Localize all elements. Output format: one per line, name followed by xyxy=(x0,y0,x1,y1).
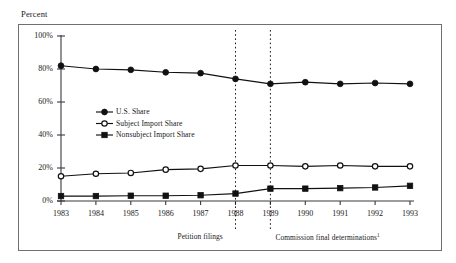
x-tick-label: 1983 xyxy=(45,209,77,218)
x-tick-label: 1992 xyxy=(359,209,391,218)
y-tick-label: 100% xyxy=(23,31,53,40)
legend-item-label: U.S. Share xyxy=(116,107,150,116)
x-tick-label: 1991 xyxy=(324,209,356,218)
y-tick-label: 40% xyxy=(23,130,53,139)
x-tick-label: 1985 xyxy=(115,209,147,218)
x-tick-label: 1987 xyxy=(185,209,217,218)
y-tick-label: 20% xyxy=(23,163,53,172)
annotation-commission-final-determinations: Commission final determinations1 xyxy=(275,232,379,242)
x-tick-label: 1989 xyxy=(254,209,286,218)
y-tick-label: 80% xyxy=(23,64,53,73)
y-tick-label: 0% xyxy=(23,196,53,205)
x-tick-label: 1986 xyxy=(150,209,182,218)
x-tick-label: 1993 xyxy=(394,209,426,218)
y-axis-title: Percent xyxy=(21,9,48,19)
annotation-petition-filings: Petition filings xyxy=(178,232,223,241)
x-tick-label: 1988 xyxy=(220,209,252,218)
legend-item-label: Nonsubject Import Share xyxy=(116,130,195,139)
y-tick-label: 60% xyxy=(23,97,53,106)
x-tick-label: 1984 xyxy=(80,209,112,218)
chart-figure: Percent 0%20%40%60%80%100% 1983198419851… xyxy=(0,0,456,263)
legend-item-label: Subject Import Share xyxy=(116,119,183,128)
x-tick-label: 1990 xyxy=(289,209,321,218)
